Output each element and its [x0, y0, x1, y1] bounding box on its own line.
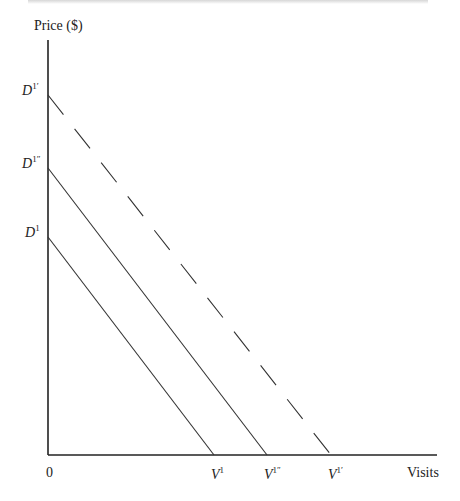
demand-chart	[0, 0, 460, 501]
x-axis-label: Visits	[407, 465, 439, 481]
demand-curve-1	[48, 168, 267, 455]
visits-intercept-label: V1″	[264, 465, 281, 483]
visits-intercept-label: V1	[211, 465, 224, 483]
visits-intercept-label: V1′	[328, 465, 343, 483]
demand-curve-2	[48, 95, 331, 455]
demand-intercept-label: D1′	[22, 81, 39, 99]
demand-intercept-label: D1	[25, 223, 40, 241]
demand-intercept-label: D1″	[22, 154, 40, 172]
demand-curve-0	[48, 237, 214, 455]
origin-label: 0	[46, 465, 53, 481]
y-axis-label: Price ($)	[34, 18, 83, 34]
demand-curves	[48, 95, 331, 455]
